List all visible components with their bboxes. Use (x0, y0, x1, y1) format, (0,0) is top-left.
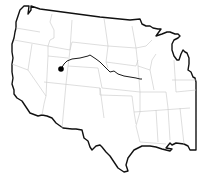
country-outline (12, 6, 196, 172)
us-map: Contiguous United States (0, 0, 204, 173)
us-map-svg (0, 0, 204, 173)
location-marker (58, 66, 64, 72)
